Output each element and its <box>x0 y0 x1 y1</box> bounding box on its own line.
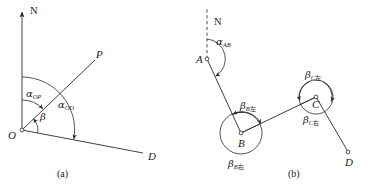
panel-a-point-o-label: O <box>8 130 16 141</box>
panel-a-alpha-op-sub: OP <box>33 93 41 100</box>
panel-b-leg-cd <box>316 97 347 150</box>
panel-b-alpha-ab-sub: AB <box>223 41 231 48</box>
panel-a-alpha-od-label: αOD <box>58 100 74 111</box>
panel-b-beta-b-right-label: βB右 <box>228 159 244 170</box>
panel-b-arc-beta-b-left <box>234 112 261 124</box>
panel-a-geometry <box>20 12 143 153</box>
panel-b-beta-c-right-label: βC右 <box>303 115 319 126</box>
panel-a-caption: (a) <box>57 169 68 179</box>
panel-a-alpha-op-glyph: α <box>26 88 33 99</box>
panel-b-geometry <box>205 8 350 154</box>
panel-b-alpha-ab-label: αAB <box>216 37 231 48</box>
panel-b-inner-chord-b <box>241 124 260 133</box>
panel-a-beta-label: β <box>40 112 46 122</box>
diagram-canvas <box>0 0 373 187</box>
panel-a-point-d-label: D <box>148 151 156 162</box>
panel-b-beta-b-left-cjk: 左 <box>250 105 256 112</box>
panel-b-north-label: N <box>214 17 222 28</box>
panel-a-arc-alpha-op <box>22 100 43 109</box>
panel-a-alpha-op-label: αOP <box>26 89 41 100</box>
panel-a-arc-beta <box>33 119 38 133</box>
panel-b-beta-b-left-label: βB左 <box>240 101 256 112</box>
panel-a-alpha-od-glyph: α <box>58 99 65 110</box>
panel-a-beta-glyph: β <box>40 111 46 122</box>
panel-b-beta-c-left-cjk: 左 <box>315 74 321 81</box>
panel-b-leg-ab <box>207 59 241 133</box>
panel-a-ray-od <box>22 130 143 153</box>
panel-b-arc-beta-b-right-tip <box>233 112 244 114</box>
panel-a-alpha-od-sub: OD <box>65 104 74 111</box>
panel-b-point-b-label: B <box>238 138 245 149</box>
panel-b-beta-c-left-label: βC左 <box>305 70 321 81</box>
panel-b-beta-b-right-cjk: 右 <box>238 163 244 170</box>
panel-b-point-b-marker <box>239 131 243 135</box>
panel-b-point-a-marker <box>205 57 209 61</box>
panel-b-point-a-label: A <box>196 54 203 65</box>
panel-b-arc-beta-c-right <box>323 82 333 102</box>
panel-b-point-d-marker <box>346 150 350 154</box>
panel-a-point-o-marker <box>20 128 24 132</box>
panel-b-point-d-label: D <box>345 157 353 168</box>
panel-a-point-p-label: P <box>96 49 103 60</box>
panel-a-north-label: N <box>30 6 38 17</box>
panel-b-caption: (b) <box>288 169 300 179</box>
panel-b-alpha-ab-glyph: α <box>216 36 223 47</box>
panel-b-arc-beta-c-left <box>299 82 309 101</box>
figure-root: N O P D αOP αOD β (a) N A B C D αAB βB左 … <box>0 0 373 187</box>
panel-b-beta-c-right-cjk: 右 <box>313 119 319 126</box>
panel-b-point-c-label: C <box>312 99 319 110</box>
